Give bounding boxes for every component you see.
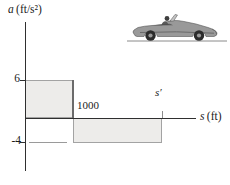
- positive-acceleration-region: [25, 80, 73, 118]
- x-tick-s-prime: [162, 111, 163, 118]
- a-s-graph-figure: a (ft/s²) s (ft) 6 -4 1000 s′: [0, 0, 230, 185]
- x-axis-line: [25, 118, 196, 119]
- guide-line-neg4: [29, 142, 67, 143]
- x-tick-s-prime-label: s′: [155, 86, 162, 99]
- driver-head: [165, 16, 170, 21]
- sports-car-illustration: [126, 6, 228, 43]
- rear-wheel-hub: [148, 33, 152, 37]
- y-axis-units: (ft/s²): [16, 3, 42, 15]
- front-wheel-hub: [197, 33, 201, 37]
- y-tick-6: [20, 80, 25, 81]
- y-axis-variable: a: [8, 3, 14, 15]
- negative-acceleration-region: [73, 118, 162, 143]
- x-axis-units: (ft): [207, 110, 222, 122]
- y-axis-line: [25, 22, 26, 171]
- y-axis-label: a (ft/s²): [8, 3, 42, 16]
- y-tick-6-label: 6: [4, 72, 20, 85]
- y-tick-neg4-label: -4: [2, 134, 21, 147]
- x-tick-1000-label: 1000: [77, 99, 99, 112]
- x-axis-variable: s: [200, 110, 204, 122]
- x-axis-label: s (ft): [200, 110, 221, 123]
- step-drop-line-at-1000: [72, 80, 73, 118]
